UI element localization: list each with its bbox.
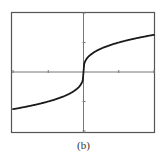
function-plot (0, 0, 167, 140)
figure-caption: (b) (0, 139, 167, 151)
